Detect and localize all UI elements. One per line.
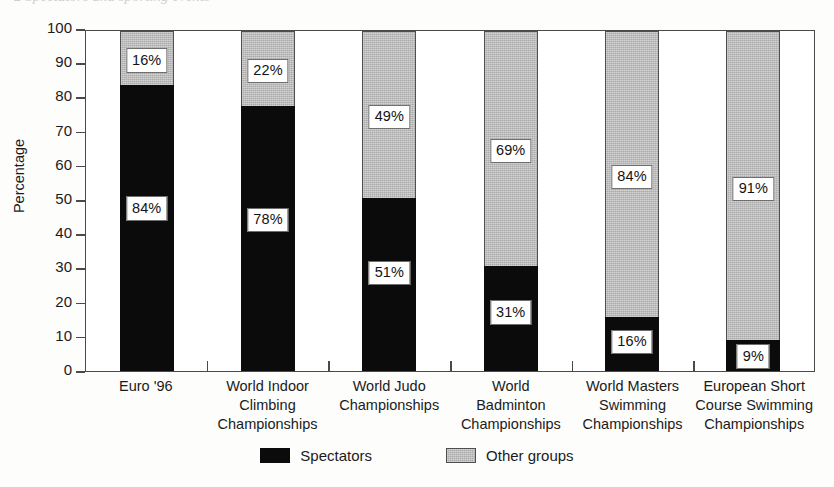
- gray-filled-swatch: [446, 448, 476, 463]
- bar-segment-other-groups[interactable]: 69%: [484, 31, 538, 266]
- bar-group: 49%51%: [329, 31, 450, 371]
- y-tick-mark: [76, 132, 85, 134]
- x-axis-label-line: Climbing: [209, 396, 327, 415]
- y-tick-label: 10: [55, 328, 72, 343]
- y-tick-mark: [76, 371, 85, 373]
- bar-group: 22%78%: [207, 31, 328, 371]
- bars-container: 16%84%22%78%49%51%69%31%84%16%91%9%: [86, 31, 814, 371]
- bar-value-label: 31%: [490, 300, 531, 325]
- y-tick-mark: [76, 303, 85, 305]
- bar-segment-spectators[interactable]: 31%: [484, 266, 538, 371]
- chart-page: 2 Spectators and sporting events Percent…: [0, 0, 834, 487]
- bar-value-label: 69%: [490, 139, 531, 164]
- bar-segment-spectators[interactable]: 84%: [120, 85, 174, 371]
- x-tick-mark: [450, 361, 452, 372]
- bar-value-label: 16%: [611, 330, 652, 355]
- bar-group: 84%16%: [571, 31, 692, 371]
- y-tick-mark: [76, 97, 85, 99]
- bar-group: 69%31%: [450, 31, 571, 371]
- x-tick-mark: [328, 361, 330, 372]
- x-axis-category-label: European ShortCourse SwimmingChampionshi…: [693, 377, 815, 434]
- y-tick-mark: [76, 63, 85, 65]
- y-tick-label: 70: [55, 123, 72, 138]
- bar-value-label: 51%: [369, 261, 410, 286]
- stacked-bar[interactable]: 84%16%: [605, 31, 659, 371]
- bar-group: 16%84%: [86, 31, 207, 371]
- x-axis-label-line: Euro '96: [87, 377, 205, 396]
- y-tick-label: 50: [55, 191, 72, 206]
- bar-segment-other-groups[interactable]: 84%: [605, 31, 659, 317]
- y-tick-mark: [76, 166, 85, 168]
- x-axis-label-line: Championships: [209, 415, 327, 434]
- bar-segment-other-groups[interactable]: 49%: [362, 31, 416, 198]
- y-tick-label: 80: [55, 88, 72, 103]
- x-axis-labels: Euro '96World IndoorClimbingChampionship…: [85, 377, 815, 434]
- x-tick-mark: [572, 361, 574, 372]
- x-tick-mark: [207, 361, 209, 372]
- y-tick-label: 20: [55, 294, 72, 309]
- bar-value-label: 91%: [733, 177, 774, 202]
- y-tick-label: 0: [64, 362, 72, 377]
- legend-item[interactable]: Spectators: [260, 447, 372, 464]
- x-axis-label-line: Championships: [330, 396, 448, 415]
- bar-value-label: 84%: [611, 165, 652, 190]
- y-tick-label: 90: [55, 54, 72, 69]
- legend-label: Spectators: [300, 447, 372, 464]
- chart-legend: SpectatorsOther groups: [0, 447, 834, 464]
- stacked-bar[interactable]: 22%78%: [241, 31, 295, 371]
- y-axis: 1009080706050403020100: [0, 30, 85, 372]
- stacked-bar[interactable]: 91%9%: [726, 31, 780, 371]
- y-tick-label: 60: [55, 157, 72, 172]
- x-axis-label-line: Championships: [695, 415, 813, 434]
- legend-label: Other groups: [486, 447, 574, 464]
- bar-value-label: 84%: [126, 196, 167, 221]
- x-axis-label-line: Championships: [574, 415, 692, 434]
- y-tick-mark: [76, 234, 85, 236]
- x-axis-label-line: European Short: [695, 377, 813, 396]
- black-filled-swatch: [260, 448, 290, 463]
- legend-item[interactable]: Other groups: [446, 447, 574, 464]
- x-axis-category-label: WorldBadmintonChampionships: [450, 377, 572, 434]
- x-axis-label-line: World Masters: [574, 377, 692, 396]
- bar-value-label: 22%: [247, 59, 288, 84]
- x-axis-label-line: World Indoor: [209, 377, 327, 396]
- y-tick-mark: [76, 200, 85, 202]
- bar-segment-other-groups[interactable]: 16%: [120, 31, 174, 85]
- y-tick-label: 100: [47, 20, 72, 35]
- stacked-bar[interactable]: 69%31%: [484, 31, 538, 371]
- x-axis-category-label: Euro '96: [85, 377, 207, 434]
- x-axis-label-line: Championships: [452, 415, 570, 434]
- x-axis-category-label: World IndoorClimbingChampionships: [207, 377, 329, 434]
- bar-value-label: 78%: [247, 208, 288, 233]
- stacked-bar[interactable]: 16%84%: [120, 31, 174, 371]
- bar-value-label: 16%: [126, 48, 167, 73]
- x-axis-label-line: World Judo: [330, 377, 448, 396]
- x-axis-label-line: Badminton: [452, 396, 570, 415]
- bar-group: 91%9%: [693, 31, 814, 371]
- bar-value-label: 9%: [737, 344, 770, 369]
- x-axis-label-line: Swimming: [574, 396, 692, 415]
- x-axis-category-label: World JudoChampionships: [328, 377, 450, 434]
- stacked-bar[interactable]: 49%51%: [362, 31, 416, 371]
- bar-value-label: 49%: [369, 105, 410, 130]
- bar-segment-spectators[interactable]: 51%: [362, 198, 416, 371]
- y-tick-mark: [76, 268, 85, 270]
- bar-segment-other-groups[interactable]: 91%: [726, 31, 780, 340]
- running-header: 2 Spectators and sporting events: [0, 0, 834, 4]
- y-tick-label: 40: [55, 225, 72, 240]
- plot-area: 16%84%22%78%49%51%69%31%84%16%91%9%: [85, 30, 815, 372]
- x-tick-mark: [693, 361, 695, 372]
- x-axis-label-line: Course Swimming: [695, 396, 813, 415]
- bar-segment-spectators[interactable]: 9%: [726, 340, 780, 371]
- bar-segment-spectators[interactable]: 16%: [605, 317, 659, 371]
- bar-segment-other-groups[interactable]: 22%: [241, 31, 295, 106]
- x-axis-label-line: World: [452, 377, 570, 396]
- y-tick-mark: [76, 29, 85, 31]
- x-axis-category-label: World MastersSwimmingChampionships: [572, 377, 694, 434]
- y-tick-mark: [76, 337, 85, 339]
- y-tick-label: 30: [55, 259, 72, 274]
- bar-segment-spectators[interactable]: 78%: [241, 106, 295, 371]
